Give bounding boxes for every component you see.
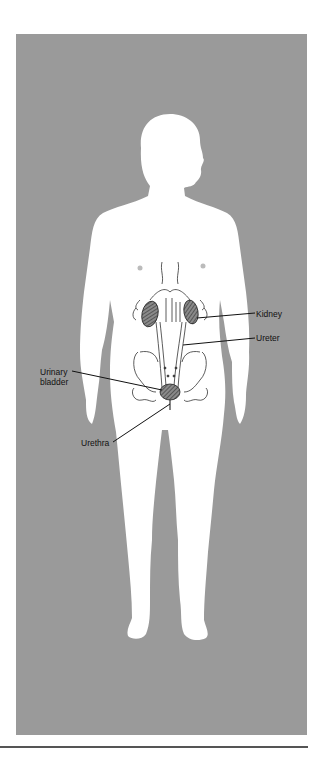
head <box>80 114 249 640</box>
label-urinary-bladder-line1: Urinary <box>40 367 67 377</box>
nipple-right <box>201 264 206 269</box>
label-kidney: Kidney <box>256 309 282 319</box>
label-urinary-bladder-line2: bladder <box>40 377 68 387</box>
urinary-system-figure <box>0 0 328 774</box>
label-urethra: Urethra <box>81 438 109 448</box>
body-silhouette <box>80 114 249 640</box>
nipple-left <box>138 266 143 271</box>
urinary-bladder <box>160 384 180 400</box>
bottom-rule <box>0 746 308 748</box>
label-ureter: Ureter <box>256 333 280 343</box>
